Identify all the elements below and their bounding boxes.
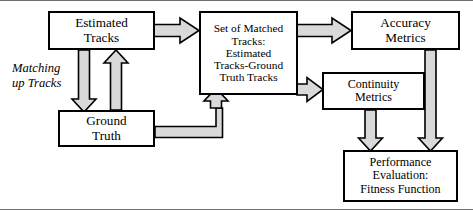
node-estimated-tracks-label: Estimated Tracks — [73, 16, 130, 45]
node-performance-evaluation-label: Performance Evaluation: Fitness Function — [358, 156, 442, 195]
node-accuracy-metrics-label: Accuracy Metrics — [378, 16, 433, 45]
arrow-matched-to-continuity — [297, 78, 323, 102]
annotation-matching-up-tracks: Matching up Tracks — [12, 61, 61, 91]
node-performance-evaluation[interactable]: Performance Evaluation: Fitness Function — [343, 150, 458, 202]
arrow-estimated-to-matched — [153, 18, 199, 43]
arrow-estimated-to-ground — [72, 50, 96, 112]
arrow-ground-to-matched — [155, 108, 223, 138]
arrow-continuity-to-performance — [359, 110, 383, 151]
node-accuracy-metrics[interactable]: Accuracy Metrics — [351, 11, 460, 50]
node-matched-tracks-label: Set of Matched Tracks: Estimated Tracks-… — [212, 22, 286, 84]
arrow-matched-to-accuracy — [297, 18, 351, 43]
node-continuity-metrics-label: Continuity Metrics — [346, 78, 402, 104]
arrow-ground-to-estimated — [104, 50, 128, 110]
node-ground-truth-label: Ground Truth — [84, 114, 128, 143]
node-continuity-metrics[interactable]: Continuity Metrics — [322, 72, 425, 110]
node-estimated-tracks[interactable]: Estimated Tracks — [48, 11, 155, 50]
diagram-canvas: Estimated Tracks Set of Matched Tracks: … — [0, 0, 473, 210]
node-ground-truth[interactable]: Ground Truth — [58, 110, 155, 147]
node-matched-tracks[interactable]: Set of Matched Tracks: Estimated Tracks-… — [199, 11, 298, 95]
